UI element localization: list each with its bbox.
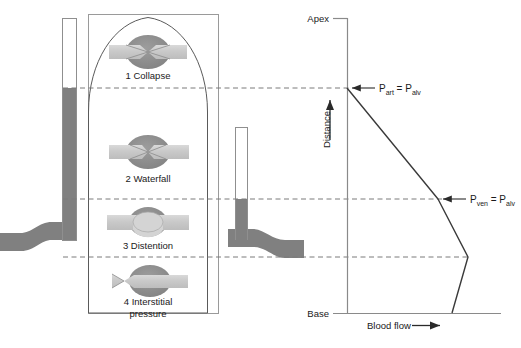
zone-2-group: 2 Waterfall: [109, 135, 189, 184]
p-ven-equals-p-alv-annotation: Pven = Palv: [443, 194, 515, 207]
blood-flow-curve: [347, 88, 468, 313]
arterial-tube-fill: [63, 88, 76, 240]
zone-4-label-line1: 4 Interstitial: [124, 296, 173, 307]
blood-flow-chart: Apex Base Distance Blood flow Part = Pal…: [307, 13, 515, 331]
collapsed-vessel-icon: [109, 35, 187, 69]
lung-zone-panel: 1 Collapse 2 Waterfall: [0, 15, 470, 320]
apex-label: Apex: [307, 13, 329, 24]
zone-2-label: 2 Waterfall: [125, 173, 170, 184]
waterfall-vessel-icon: [109, 135, 189, 169]
zone-4-label-line2: pressure: [130, 308, 167, 319]
zone-3-group: 3 Distention: [107, 207, 189, 251]
venous-manometer-tube: [228, 128, 304, 259]
zone-1-group: 1 Collapse: [109, 35, 187, 81]
venous-tube-fill: [236, 199, 247, 240]
west-zones-figure: 1 Collapse 2 Waterfall: [0, 0, 521, 348]
distance-axis-label: Distance: [321, 111, 332, 148]
zone-3-label: 3 Distention: [123, 240, 173, 251]
p-art-equals-p-alv-annotation: Part = Palv: [352, 83, 421, 96]
p-ven-label: Pven = Palv: [470, 194, 515, 207]
zone-boundaries: [63, 88, 470, 257]
blood-flow-axis-label: Blood flow: [367, 320, 411, 331]
base-label: Base: [307, 308, 329, 319]
p-art-label: Part = Palv: [379, 83, 421, 96]
zone-4-group: 4 Interstitial pressure: [112, 265, 188, 319]
arterial-manometer-tube: [0, 19, 77, 252]
zone-1-label: 1 Collapse: [126, 70, 171, 81]
interstitial-vessel-icon: [112, 265, 188, 297]
distended-vessel-icon: [107, 207, 189, 237]
